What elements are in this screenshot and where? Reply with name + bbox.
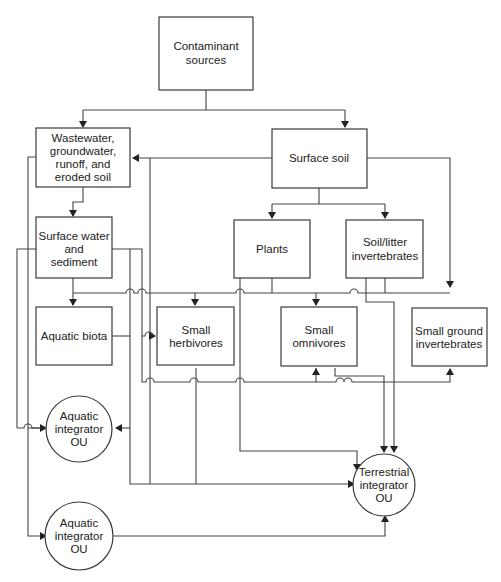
node-aquatic-integrator-1: Aquatic integrator OU [46,396,112,462]
node-soil-litter-invertebrates: Soil/litter invertebrates [346,220,423,278]
node-label: OU [70,436,87,448]
node-label: OU [375,492,392,504]
node-surface-water: Surface water and sediment [36,217,112,278]
node-terrestrial-integrator: Terrestrial integrator OU [353,454,415,516]
node-label: OU [70,543,87,555]
node-aquatic-biota: Aquatic biota [36,307,112,365]
node-small-ground-invertebrates: Small ground invertebrates [412,308,487,366]
node-label: Terrestrial [359,466,409,478]
node-label: omnivores [292,337,345,349]
node-label: herbivores [169,337,223,349]
node-label: sediment [51,256,98,268]
node-label: sources [186,54,227,66]
node-label: Surface water [39,230,110,242]
node-label: Small [182,324,211,336]
node-aquatic-integrator-2: Aquatic integrator OU [45,502,113,570]
node-label: integrator [55,423,104,435]
node-label: Small ground [415,325,483,337]
node-contaminant-sources: Contaminant sources [159,17,253,90]
node-label: Small [305,324,334,336]
node-label: Aquatic [60,410,99,422]
node-wastewater: Wastewater, groundwater, runoff, and ero… [36,128,130,187]
node-small-herbivores: Small herbivores [157,307,234,365]
node-plants: Plants [234,220,310,278]
node-label: integrator [360,479,409,491]
node-label: Contaminant [173,40,239,52]
node-label: invertebrates [416,338,483,350]
node-label: Aquatic biota [41,330,108,342]
node-label: Surface soil [289,152,349,164]
exposure-pathway-diagram: Contaminant sources Wastewater, groundwa… [0,0,501,582]
node-label: runoff, and [56,158,111,170]
node-label: invertebrates [352,250,419,262]
node-small-omnivores: Small omnivores [281,307,357,366]
node-label: Soil/litter [363,236,407,248]
node-label: Aquatic [60,517,99,529]
node-label: groundwater, [50,145,117,157]
node-label: integrator [55,530,104,542]
node-label: and [64,243,83,255]
node-surface-soil: Surface soil [272,129,367,188]
node-label: Plants [256,243,288,255]
node-label: eroded soil [55,171,111,183]
node-label: Wastewater, [52,132,115,144]
